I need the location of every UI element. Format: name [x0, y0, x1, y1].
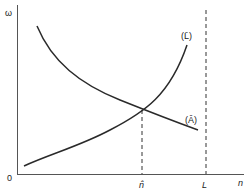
n-hat-label: n̂ — [139, 180, 144, 190]
A-hat-curve — [37, 26, 198, 130]
L-bar-curve — [24, 45, 187, 166]
origin-label: 0 — [7, 173, 12, 183]
y-axis-label: ω — [5, 8, 12, 18]
L-bar-curve-label: (L̄) — [181, 31, 192, 41]
A-hat-curve-label: (Â) — [185, 115, 197, 125]
x-axis-label: n — [238, 178, 243, 188]
diagram-canvas: ω 0 n (L̄) (Â) n̂ L — [0, 0, 251, 193]
L-label: L — [202, 180, 207, 190]
